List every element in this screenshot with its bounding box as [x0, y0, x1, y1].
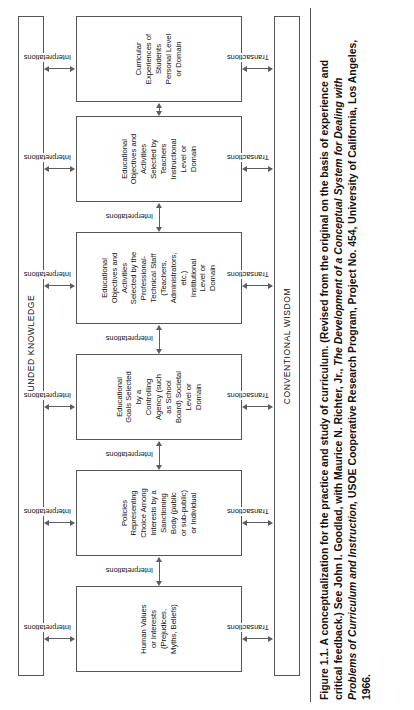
label-interpretations-box3-box4: Interpretations — [105, 334, 154, 343]
label-transactions-box6: Transactions — [226, 53, 270, 62]
arrowhead-down-box3-funded — [70, 404, 75, 410]
caption-line-2-roman: critical feedback.) See John I. Goodlad,… — [333, 366, 344, 700]
funded-knowledge-rail: FUNDED KNOWLEDGE — [18, 16, 44, 676]
arrowhead-down-box3-conv — [268, 404, 273, 410]
box-educational-goals-text: Educational Goals Selected by a Controll… — [115, 371, 204, 423]
arrowhead-up-box2-funded — [44, 520, 49, 526]
label-interpretations-box4: Interpretations — [23, 270, 72, 279]
arrowhead-down-box1-funded — [70, 636, 75, 642]
arrowhead-up-box4-funded — [44, 283, 49, 289]
arrowhead-left-box5-box6 — [156, 111, 162, 116]
caption-line-3: Problems of Curriculum and Instruction, … — [346, 10, 360, 700]
arrowhead-down-box6-conv — [268, 66, 273, 72]
arrowhead-up-box6-conv — [242, 66, 247, 72]
arrowhead-right-box1-box2 — [156, 557, 162, 562]
arrowhead-left-box3-box4 — [156, 349, 162, 354]
arrowhead-right-box4-box5 — [156, 203, 162, 208]
arrowhead-down-box1-conv — [268, 636, 273, 642]
box-objectives-professional-staff-text: Educational Objectives and Activities Se… — [100, 252, 218, 304]
label-interpretations-box2-box3: Interpretations — [105, 450, 154, 459]
label-interpretations-box3: Interpretations — [23, 391, 72, 400]
label-interpretations-box6: Interpretations — [23, 53, 72, 62]
caption-line-4: 1966. — [360, 10, 374, 700]
arrowhead-up-box3-conv — [242, 404, 247, 410]
diagram-area: FUNDED KNOWLEDGE CONVENTIONAL WISDOM Hum… — [14, 8, 304, 702]
conventional-wisdom-rail: CONVENTIONAL WISDOM — [274, 16, 300, 676]
box-objectives-teachers-text: Educational Objectives and Activities Se… — [120, 134, 199, 184]
arrowhead-left-box4-box5 — [156, 227, 162, 232]
arrowhead-down-box2-funded — [70, 520, 75, 526]
label-interpretations-box1: Interpretations — [23, 623, 72, 632]
box-educational-goals: Educational Goals Selected by a Controll… — [76, 354, 242, 440]
arrowhead-up-box1-funded — [44, 636, 49, 642]
arrowhead-down-box6-funded — [70, 66, 75, 72]
conventional-wisdom-label: CONVENTIONAL WISDOM — [275, 17, 299, 675]
arrowhead-left-box1-box2 — [156, 581, 162, 586]
arrowhead-up-box2-conv — [242, 520, 247, 526]
rotated-figure-sheet: FUNDED KNOWLEDGE CONVENTIONAL WISDOM Hum… — [0, 0, 414, 710]
arrowhead-up-box6-funded — [44, 66, 49, 72]
arrowhead-up-box4-conv — [242, 283, 247, 289]
arrowhead-down-box5-funded — [70, 166, 75, 172]
label-transactions-box3: Transactions — [226, 391, 270, 400]
arrowhead-up-box5-funded — [44, 166, 49, 172]
label-transactions-box2: Transactions — [226, 507, 270, 516]
arrowhead-right-box3-box4 — [156, 325, 162, 330]
label-transactions-box5: Transactions — [226, 153, 270, 162]
label-transactions-box1: Transactions — [226, 623, 270, 632]
arrowhead-down-box4-funded — [70, 283, 75, 289]
arrowhead-left-box2-box3 — [156, 465, 162, 470]
label-interpretations-box5: Interpretations — [23, 153, 72, 162]
caption-line-1: Figure 1.1. A conceptualization for the … — [318, 10, 332, 700]
label-interpretations-box2: Interpretations — [23, 507, 72, 516]
figure-page: FUNDED KNOWLEDGE CONVENTIONAL WISDOM Hum… — [0, 0, 414, 710]
caption-line-2: critical feedback.) See John I. Goodlad,… — [332, 10, 346, 700]
box-objectives-professional-staff: Educational Objectives and Activities Se… — [76, 232, 242, 324]
label-interpretations-box4-box5: Interpretations — [105, 212, 154, 221]
box-curricular-experiences: Curricular Experiences of Students Perso… — [76, 16, 242, 102]
arrowhead-down-box4-conv — [268, 283, 273, 289]
caption-rule — [310, 8, 311, 702]
box-objectives-teachers: Educational Objectives and Activities Se… — [76, 116, 242, 202]
arrowhead-up-box3-funded — [44, 404, 49, 410]
caption-line-2-italic: The Development of a Conceptual System f… — [333, 78, 344, 366]
caption-line-3-roman: USOE Cooperative Research Program, Proje… — [347, 40, 358, 501]
arrowhead-right-box5-box6 — [156, 103, 162, 108]
box-curricular-experiences-text: Curricular Experiences of Students Perso… — [134, 34, 183, 84]
box-policies-text: Policies Representing Choice Among Inter… — [120, 488, 199, 537]
box-policies: Policies Representing Choice Among Inter… — [76, 470, 242, 556]
box-human-values-text: Human Values or Interests (Prejudices, M… — [139, 604, 178, 654]
arrowhead-up-box1-conv — [242, 636, 247, 642]
figure-caption: Figure 1.1. A conceptualization for the … — [318, 10, 374, 700]
label-transactions-box4: Transactions — [226, 270, 270, 279]
label-interpretations-box1-box2: Interpretations — [105, 566, 154, 575]
arrowhead-up-box5-conv — [242, 166, 247, 172]
caption-line-3-italic: Problems of Curriculum and Instruction, — [347, 501, 358, 700]
arrowhead-right-box2-box3 — [156, 441, 162, 446]
arrowhead-down-box5-conv — [268, 166, 273, 172]
arrowhead-down-box2-conv — [268, 520, 273, 526]
funded-knowledge-label: FUNDED KNOWLEDGE — [19, 17, 43, 675]
box-human-values: Human Values or Interests (Prejudices, M… — [76, 586, 242, 672]
